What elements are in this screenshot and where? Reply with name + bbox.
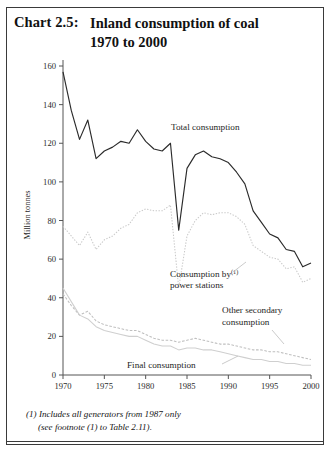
x-axis-ticks: 1970197519801985199019952000 xyxy=(54,375,319,391)
annotation-other-secondary-line2: consumption xyxy=(222,317,270,327)
x-tick-label: 1970 xyxy=(54,381,71,391)
footnote-line-2: (see footnote (1) to Table 2.11). xyxy=(26,421,312,434)
leader-line-other-secondary xyxy=(272,330,284,344)
y-tick-label: 100 xyxy=(43,177,56,187)
y-tick-label: 140 xyxy=(43,100,56,110)
chart-svg: 020406080100120140160 197019751980198519… xyxy=(0,0,332,453)
x-tick-label: 2000 xyxy=(302,381,319,391)
y-tick-label: 40 xyxy=(47,293,56,303)
leader-line-final-consumption xyxy=(222,356,238,364)
x-tick-label: 1990 xyxy=(220,381,237,391)
y-axis-title: Million tonnes xyxy=(23,190,32,239)
y-tick-label: 60 xyxy=(47,254,56,264)
annotation-other-secondary-line1: Other secondary xyxy=(222,305,283,315)
footer-rule xyxy=(7,441,324,442)
annotation-power-stations-line1: Consumption by(1) xyxy=(170,268,238,279)
footnote: (1) Includes all generators from 1987 on… xyxy=(26,408,312,433)
x-tick-label: 1975 xyxy=(96,381,113,391)
annotation-final-consumption: Final consumption xyxy=(127,360,196,370)
annotation-total-consumption: Total consumption xyxy=(171,122,240,132)
x-tick-label: 1995 xyxy=(261,381,278,391)
x-tick-label: 1985 xyxy=(178,381,195,391)
y-tick-label: 160 xyxy=(43,61,56,71)
y-tick-label: 0 xyxy=(52,370,56,380)
y-axis-ticks: 020406080100120140160 xyxy=(43,61,63,380)
y-tick-label: 120 xyxy=(43,138,56,148)
series-line-final-consumption xyxy=(63,288,311,365)
plot-area: 020406080100120140160 197019751980198519… xyxy=(0,0,332,453)
x-tick-label: 1980 xyxy=(137,381,154,391)
footnote-line-1: (1) Includes all generators from 1987 on… xyxy=(26,409,181,419)
y-tick-label: 20 xyxy=(47,331,56,341)
y-tick-label: 80 xyxy=(47,216,56,226)
annotation-power-stations-line2: power stations xyxy=(170,280,224,290)
series-line-other-secondary xyxy=(63,294,311,360)
